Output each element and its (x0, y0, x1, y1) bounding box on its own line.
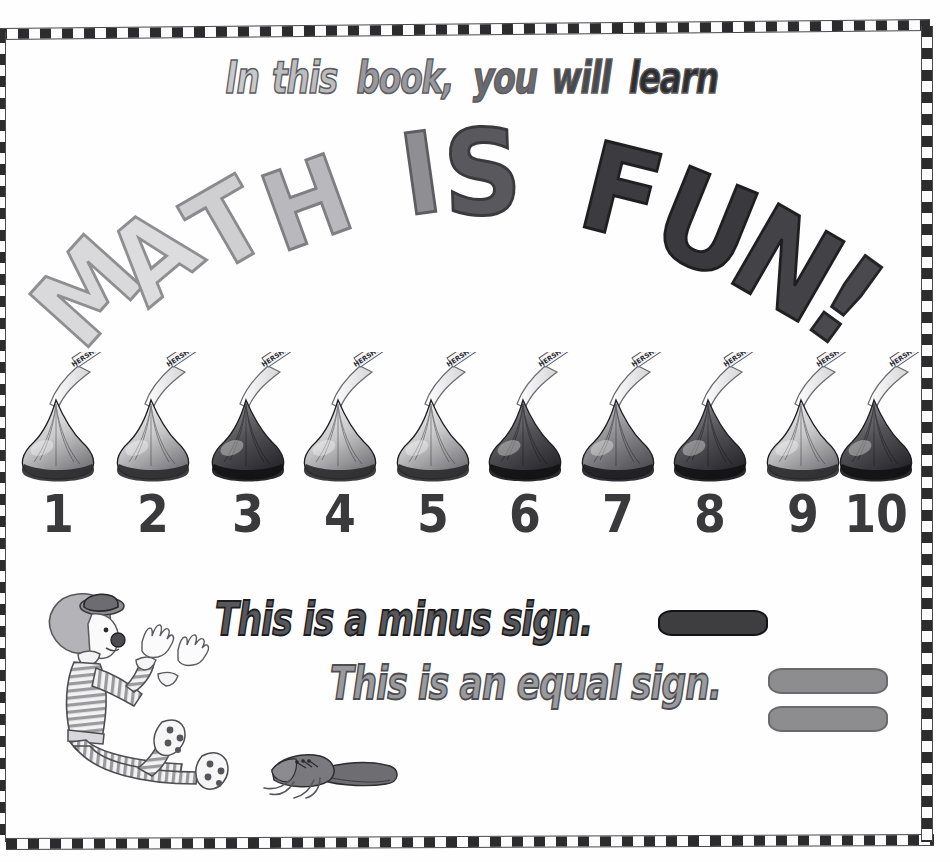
headline-word-3: book, (356, 51, 453, 103)
kiss-item-10: HERSHEY'S10 (828, 352, 924, 552)
kiss-number-label: 2 (111, 488, 195, 540)
clown-shoes-illustration (258, 740, 408, 802)
headline-word-1: In (226, 51, 259, 103)
headline-word-6: learn (629, 51, 718, 103)
kiss-number-label: 5 (391, 488, 475, 540)
equal-sign-bar-top (768, 668, 888, 694)
kiss-item-5: HERSHEY'S5 (385, 352, 481, 552)
hersheys-kiss-icon: HERSHEY'S (662, 352, 758, 492)
hersheys-kiss-icon: HERSHEY'S (828, 352, 924, 492)
page-title: MATHISFUN! (0, 110, 950, 360)
equal-statement-text: This is an equal sign. (330, 657, 721, 710)
headline: Inthisbook,youwilllearn (0, 54, 950, 100)
title-letter-I-5: I (394, 116, 448, 232)
hersheys-kiss-icon: HERSHEY'S (105, 352, 201, 492)
kiss-number-label: 10 (834, 488, 918, 540)
border-bottom (6, 834, 934, 850)
kiss-number-label: 1 (16, 488, 100, 540)
kiss-number-label: 3 (206, 488, 290, 540)
equal-sign-bar-bottom (768, 706, 888, 732)
minus-sign-icon (658, 610, 768, 636)
kiss-number-label: 8 (668, 488, 752, 540)
title-letter-S-6: S (441, 113, 523, 234)
kiss-number-label: 6 (483, 488, 567, 540)
kiss-item-3: HERSHEY'S3 (200, 352, 296, 552)
clown-illustration (30, 588, 260, 798)
kiss-item-2: HERSHEY'S2 (105, 352, 201, 552)
hersheys-kiss-icon: HERSHEY'S (477, 352, 573, 492)
hersheys-kiss-icon: HERSHEY'S (385, 352, 481, 492)
counting-kisses-row: HERSHEY'S1HERSHEY'S2HERSHEY'S3HERSHEY'S4… (0, 352, 950, 552)
headline-word-4: you (473, 51, 537, 103)
hersheys-kiss-icon: HERSHEY'S (570, 352, 666, 492)
border-top (0, 19, 930, 40)
kiss-number-label: 7 (576, 488, 660, 540)
kiss-item-6: HERSHEY'S6 (477, 352, 573, 552)
clown-svg (30, 588, 260, 798)
headline-word-5: will (552, 51, 611, 103)
kiss-item-4: HERSHEY'S4 (292, 352, 388, 552)
worksheet-page: Inthisbook,youwilllearn MATHISFUN! HERSH… (0, 0, 950, 862)
headline-word-2: this (272, 51, 337, 103)
hersheys-kiss-icon: HERSHEY'S (200, 352, 296, 492)
minus-statement: This is a minus sign. (215, 596, 653, 642)
hersheys-kiss-icon: HERSHEY'S (10, 352, 106, 492)
kiss-item-8: HERSHEY'S8 (662, 352, 758, 552)
kiss-item-7: HERSHEY'S7 (570, 352, 666, 552)
kiss-number-label: 4 (298, 488, 382, 540)
shoes-svg (258, 740, 408, 802)
equal-sign-icon (768, 668, 888, 744)
equal-statement: This is an equal sign. (330, 660, 785, 706)
minus-statement-text: This is a minus sign. (215, 593, 592, 646)
kiss-item-1: HERSHEY'S1 (10, 352, 106, 552)
hersheys-kiss-icon: HERSHEY'S (292, 352, 388, 492)
